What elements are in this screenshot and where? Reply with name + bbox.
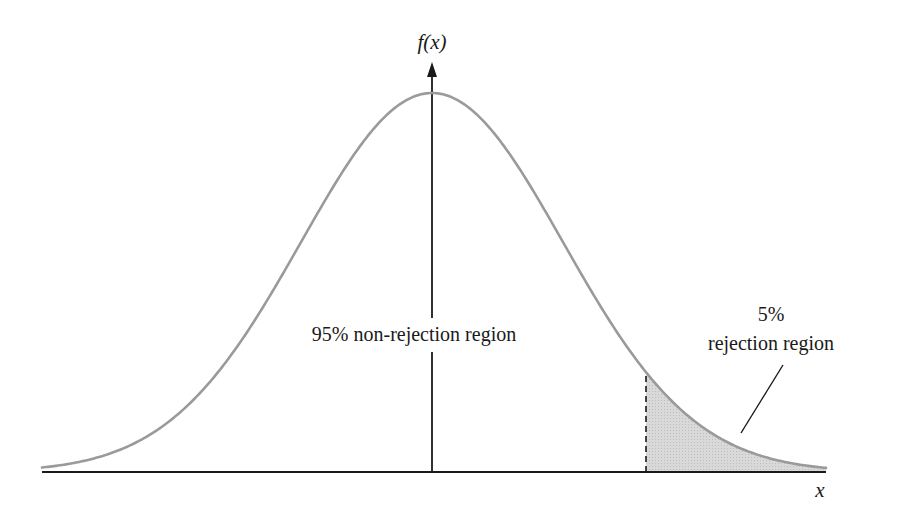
normal-curve: [42, 93, 826, 468]
rejection-region-label: rejection region: [708, 332, 834, 355]
y-axis-label: f(x): [417, 30, 446, 54]
y-axis-arrow-icon: [427, 62, 437, 77]
rejection-label-pointer-line: [741, 365, 783, 433]
rejection-percent-label: 5%: [758, 303, 785, 325]
x-axis-label: x: [814, 478, 825, 502]
normal-distribution-chart: f(x) x 95% non-rejection region 5% rejec…: [0, 0, 900, 525]
rejection-region-area: [646, 372, 826, 472]
non-rejection-region-label: 95% non-rejection region: [312, 323, 516, 346]
